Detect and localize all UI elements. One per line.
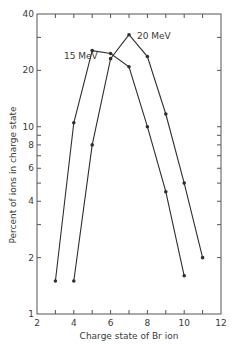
y-axis-label: Percent of ions in charge state — [8, 106, 18, 244]
data-point-20mev — [90, 143, 94, 147]
data-point-15mev — [127, 65, 131, 69]
y-tick-label: 4 — [28, 196, 34, 206]
data-point-15mev — [182, 274, 186, 278]
y-tick-label: 2 — [28, 253, 34, 263]
y-tick-label: 40 — [23, 9, 35, 19]
data-point-15mev — [72, 121, 76, 125]
data-point-20mev — [146, 55, 150, 59]
data-point-20mev — [201, 256, 205, 260]
x-axis-label: Charge state of Br ion — [80, 331, 179, 341]
data-point-20mev — [182, 181, 186, 185]
data-point-20mev — [72, 279, 76, 283]
x-tick-label: 4 — [71, 318, 77, 328]
y-tick-label: 8 — [28, 140, 34, 150]
series-group — [54, 33, 205, 283]
x-axis-ticks: 24681012 — [34, 14, 227, 328]
data-point-15mev — [164, 190, 168, 194]
annotation-20mev: 20 MeV — [137, 31, 172, 41]
x-tick-label: 10 — [178, 318, 190, 328]
y-axis-ticks: 12468102040 — [23, 9, 221, 319]
annotation-15mev: 15 MeV — [64, 51, 99, 61]
y-tick-label: 6 — [28, 163, 34, 173]
x-tick-label: 6 — [108, 318, 114, 328]
y-tick-label: 1 — [28, 309, 34, 319]
x-tick-label: 12 — [215, 318, 226, 328]
data-point-20mev — [127, 33, 131, 37]
y-tick-label: 10 — [23, 122, 35, 132]
data-point-15mev — [146, 125, 150, 129]
x-tick-label: 2 — [34, 318, 40, 328]
y-tick-label: 20 — [23, 65, 35, 75]
data-point-20mev — [109, 57, 113, 61]
chart: 24681012 12468102040 15 MeV 20 MeV Charg… — [0, 0, 233, 348]
data-point-20mev — [164, 112, 168, 116]
series-line-15mev — [55, 51, 184, 281]
series-line-20mev — [74, 35, 203, 281]
data-point-15mev — [54, 279, 58, 283]
x-tick-label: 8 — [145, 318, 151, 328]
data-point-15mev — [109, 52, 113, 56]
